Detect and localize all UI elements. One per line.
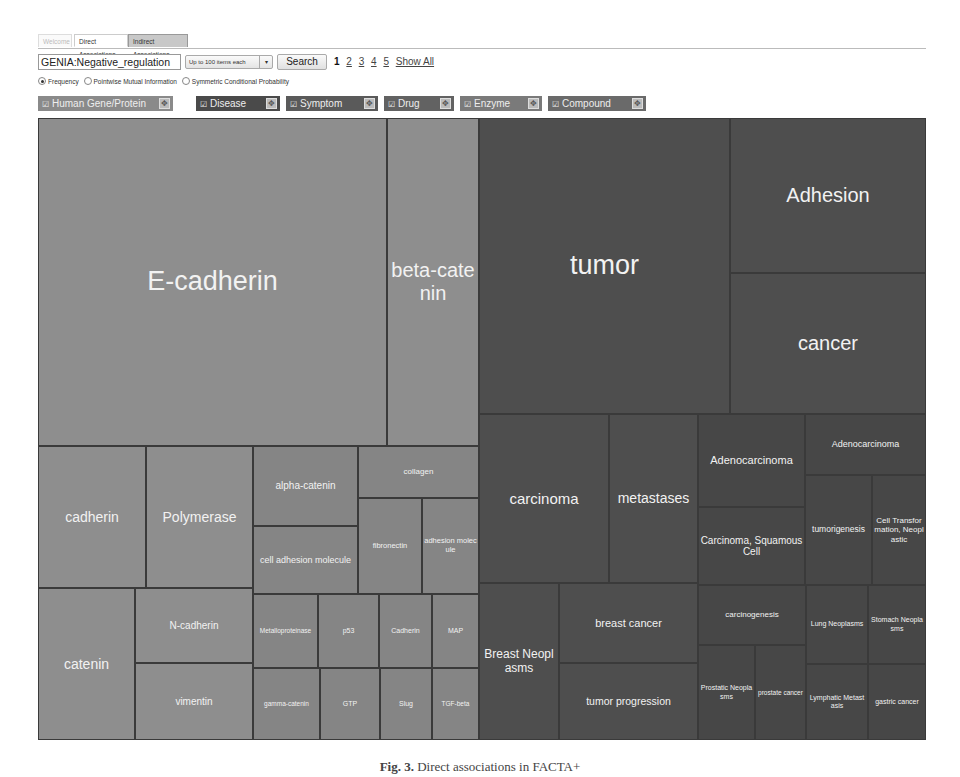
chevron-down-icon[interactable]: ▾ (259, 56, 272, 68)
treemap-cell[interactable]: cell adhesion molecule (253, 526, 358, 594)
query-input[interactable]: GENIA:Negative_regulation (38, 54, 181, 70)
treemap-cell[interactable]: Adhesion (730, 118, 926, 273)
treemap-cell[interactable]: Adenocarcinoma (698, 414, 805, 507)
treemap-cell[interactable]: Polymerase (146, 446, 253, 588)
show-all-link[interactable]: Show All (396, 56, 434, 67)
treemap-cell[interactable]: metastases (609, 414, 698, 583)
limit-select-value: Up to 100 items each (189, 59, 246, 65)
measure-options: Frequency Pointwise Mutual Information S… (38, 77, 292, 87)
treemap-cell[interactable]: tumor progression (559, 663, 698, 740)
radio-selected-icon[interactable] (38, 77, 46, 85)
caption-prefix: Fig. 3. (380, 759, 414, 774)
treemap-cell[interactable]: gastric cancer (868, 664, 926, 740)
treemap-cell[interactable]: Lung Neoplasms (806, 585, 868, 664)
treemap-cell[interactable]: MAP (432, 594, 479, 668)
treemap-cell[interactable]: p53 (318, 594, 379, 668)
radio-icon[interactable] (84, 77, 92, 85)
treemap-cell[interactable]: Breast Neoplasms (479, 583, 559, 740)
treemap-cell[interactable]: Metalloproteinase (253, 594, 318, 668)
category-symptom[interactable]: ☑Symptom ✥ (286, 96, 378, 111)
page-3-link[interactable]: 3 (359, 56, 365, 67)
treemap-cell[interactable]: collagen (358, 446, 479, 498)
figure-caption: Fig. 3. Direct associations in FACTA+ (0, 759, 960, 775)
treemap-cell[interactable]: beta-catenin (387, 118, 479, 446)
treemap-cell[interactable]: Prostatic Neoplasms (698, 645, 755, 740)
category-compound[interactable]: ☑Compound ✥ (548, 96, 646, 111)
limit-select[interactable]: Up to 100 items each ▾ (185, 55, 273, 69)
search-button[interactable]: Search (277, 54, 327, 70)
tab-direct-associations[interactable]: Direct Associations (74, 34, 128, 47)
tab-bar: Welcome Direct Associations Indirect Ass… (38, 34, 926, 49)
checkbox-icon[interactable]: ☑ (200, 100, 207, 109)
treemap-cell[interactable]: carcinoma (479, 414, 609, 583)
expand-icon[interactable]: ✥ (440, 98, 451, 109)
category-enzyme[interactable]: ☑Enzyme ✥ (460, 96, 542, 111)
radio-icon[interactable] (182, 77, 190, 85)
treemap-cell[interactable]: Cadherin (379, 594, 432, 668)
checkbox-icon[interactable]: ☑ (42, 100, 49, 109)
expand-icon[interactable]: ✥ (159, 98, 170, 109)
treemap-cell[interactable]: cancer (730, 273, 926, 414)
treemap-cell[interactable]: Carcinoma, Squamous Cell (698, 507, 805, 585)
checkbox-icon[interactable]: ☑ (552, 100, 559, 109)
treemap-cell[interactable]: E-cadherin (38, 118, 387, 446)
treemap-cell[interactable]: fibronectin (358, 498, 422, 594)
treemap-cell[interactable]: vimentin (135, 663, 253, 740)
category-disease[interactable]: ☑Disease ✥ (196, 96, 280, 111)
treemap-cell[interactable]: GTP (320, 668, 380, 740)
treemap-cell[interactable]: Lymphatic Metastasis (806, 664, 868, 740)
checkbox-icon[interactable]: ☑ (290, 100, 297, 109)
treemap-cell[interactable]: Cell Transformation, Neoplastic (872, 475, 926, 585)
treemap-cell[interactable]: prostate cancer (755, 645, 806, 740)
page-4-link[interactable]: 4 (371, 56, 377, 67)
treemap-cell[interactable]: catenin (38, 588, 135, 740)
measure-pmi[interactable]: Pointwise Mutual Information (84, 78, 177, 85)
treemap-cell[interactable]: Slug (380, 668, 432, 740)
treemap-cell[interactable]: cadherin (38, 446, 146, 588)
checkbox-icon[interactable]: ☑ (388, 100, 395, 109)
treemap-cell[interactable]: adhesion molecule (422, 498, 479, 594)
page-1: 1 (334, 56, 340, 67)
expand-icon[interactable]: ✥ (632, 98, 643, 109)
checkbox-icon[interactable]: ☑ (464, 100, 471, 109)
tab-welcome[interactable]: Welcome (38, 34, 72, 47)
pagination: 1 2 3 4 5 Show All (334, 55, 438, 69)
tab-indirect-associations[interactable]: Indirect Associations (128, 34, 188, 47)
expand-icon[interactable]: ✥ (364, 98, 375, 109)
category-drug[interactable]: ☑Drug ✥ (384, 96, 454, 111)
treemap-cell[interactable]: tumor (479, 118, 730, 414)
treemap: E-cadherin beta-catenin cadherin Polymer… (38, 118, 926, 740)
page-5-link[interactable]: 5 (383, 56, 389, 67)
treemap-cell[interactable]: gamma-catenin (253, 668, 320, 740)
page-2-link[interactable]: 2 (346, 56, 352, 67)
treemap-cell[interactable]: tumorigenesis (805, 475, 872, 585)
treemap-cell[interactable]: Adenocarcinoma (805, 414, 926, 475)
treemap-cell[interactable]: carcinogenesis (698, 585, 806, 645)
category-human-gene-protein[interactable]: ☑Human Gene/Protein ✥ (38, 96, 173, 111)
measure-scp[interactable]: Symmetric Conditional Probability (182, 78, 289, 85)
treemap-cell[interactable]: alpha-catenin (253, 446, 358, 526)
expand-icon[interactable]: ✥ (266, 98, 277, 109)
measure-frequency[interactable]: Frequency (38, 78, 79, 85)
treemap-cell[interactable]: breast cancer (559, 583, 698, 663)
treemap-cell[interactable]: Stomach Neoplasms (868, 585, 926, 664)
caption-text: Direct associations in FACTA+ (417, 759, 580, 774)
treemap-cell[interactable]: N-cadherin (135, 588, 253, 663)
treemap-cell[interactable]: TGF-beta (432, 668, 479, 740)
expand-icon[interactable]: ✥ (528, 98, 539, 109)
